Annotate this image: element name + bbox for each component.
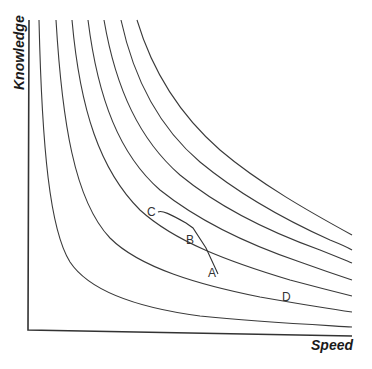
point-label-c: C (147, 205, 156, 219)
point-label-b: B (186, 233, 194, 247)
diagram-canvas: Speed Knowledge C B A D (0, 0, 372, 369)
y-axis-label: Knowledge (11, 15, 27, 90)
point-label-d: D (282, 290, 291, 304)
x-axis-label: Speed (311, 337, 353, 353)
curve-7 (137, 20, 352, 235)
curve-2 (56, 20, 352, 312)
point-label-a: A (208, 266, 216, 280)
curve-5 (104, 20, 352, 263)
axes (28, 20, 352, 336)
curve-3 (72, 20, 352, 296)
